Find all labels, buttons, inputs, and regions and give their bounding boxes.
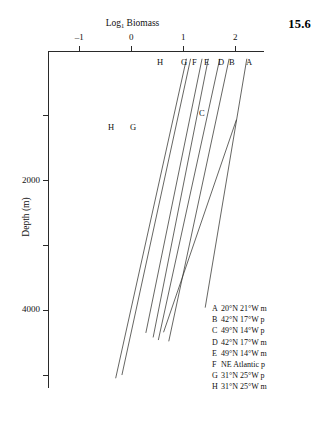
- legend-key: B: [212, 314, 221, 325]
- data-line-G: [122, 59, 191, 375]
- legend-row: H31°N 25°W m: [212, 381, 267, 392]
- legend-key: D: [212, 337, 221, 348]
- legend-key: G: [212, 370, 221, 381]
- data-line-F: [146, 59, 202, 333]
- data-line-E: [153, 59, 208, 338]
- y-tick-label: 4000: [0, 304, 40, 314]
- curve-top-label: A: [246, 57, 252, 67]
- legend-text: 42°N 17°W m: [221, 338, 267, 347]
- legend-text: 20°N 21°W m: [221, 304, 267, 313]
- legend-row: FNE Atlantic p: [212, 359, 267, 370]
- legend-key: C: [212, 325, 221, 336]
- legend-key: E: [212, 348, 221, 359]
- curve-inline-label: G: [130, 122, 136, 132]
- legend-text: 42°N 17°W p: [221, 315, 265, 324]
- x-tick-label: 0: [111, 32, 151, 42]
- x-tick-label: 1: [163, 32, 203, 42]
- data-line-C: [164, 120, 237, 333]
- x-tick-label: –1: [59, 32, 99, 42]
- legend-row: C49°N 14°W p: [212, 325, 267, 336]
- legend-row: E49°N 14°W m: [212, 348, 267, 359]
- legend-text: NE Atlantic p: [221, 360, 265, 369]
- curve-top-label: B: [229, 57, 235, 67]
- curve-inline-label: C: [199, 108, 205, 118]
- legend-key: F: [212, 359, 221, 370]
- curve-top-label: E: [204, 57, 209, 67]
- curve-top-label: H: [157, 57, 163, 67]
- data-line-H: [116, 59, 187, 379]
- legend-text: 49°N 14°W m: [221, 349, 267, 358]
- legend-key: A: [212, 303, 221, 314]
- x-tick-label: 2: [215, 32, 255, 42]
- y-tick-label: 2000: [0, 175, 40, 185]
- legend-row: G31°N 25°W p: [212, 370, 267, 381]
- legend-row: D42°N 17°W m: [212, 337, 267, 348]
- data-line-B: [169, 59, 229, 342]
- curve-inline-label: H: [108, 122, 114, 132]
- legend-key: H: [212, 381, 221, 392]
- curve-top-label: F: [192, 57, 197, 67]
- curve-top-label: D: [218, 57, 224, 67]
- legend-row: A20°N 21°W m: [212, 303, 267, 314]
- legend-text: 49°N 14°W p: [221, 326, 265, 335]
- curve-top-label: G: [181, 57, 187, 67]
- legend-row: B42°N 17°W p: [212, 314, 267, 325]
- figure-container: 15.6 Log1 Biomass Depth (m) –1012 200040…: [0, 0, 319, 422]
- legend: A20°N 21°W mB42°N 17°W pC49°N 14°W pD42°…: [212, 303, 267, 393]
- legend-text: 31°N 25°W m: [221, 382, 267, 391]
- data-line-D: [158, 59, 219, 340]
- legend-text: 31°N 25°W p: [221, 371, 265, 380]
